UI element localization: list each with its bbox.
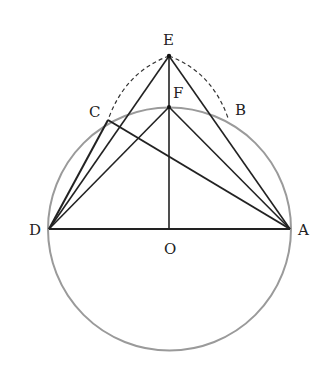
label-a: A <box>297 221 309 239</box>
geometry-figure: E F C B D A O <box>0 0 330 381</box>
label-e: E <box>163 31 174 49</box>
point-e-dot <box>167 54 171 58</box>
label-c: C <box>89 103 100 121</box>
point-f-dot <box>167 105 171 109</box>
label-d: D <box>29 221 41 239</box>
segment-cd <box>49 120 108 229</box>
segment-fd <box>49 107 169 229</box>
segment-ea <box>169 56 290 229</box>
segment-ed <box>49 56 169 229</box>
label-o: O <box>164 240 176 258</box>
label-f: F <box>173 84 183 102</box>
dashed-arc-ec <box>108 56 169 120</box>
label-b: B <box>235 101 246 119</box>
diagram-canvas: E F C B D A O <box>0 0 330 381</box>
